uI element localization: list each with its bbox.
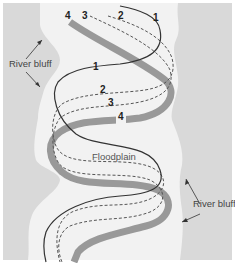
channel-label-1-mid: 1 xyxy=(93,61,99,72)
channel-label-4-mid: 4 xyxy=(118,111,124,122)
channel-label-3-mid: 3 xyxy=(108,97,114,108)
channel-label-3-top: 3 xyxy=(82,10,88,21)
channel-label-1-top: 1 xyxy=(153,12,159,23)
river-bluff-label-right: River bluff xyxy=(193,198,235,209)
floodplain-label: Floodplain xyxy=(92,151,136,162)
channel-label-2-top: 2 xyxy=(118,10,124,21)
channel-label-2-mid: 2 xyxy=(100,84,106,95)
channel-label-4-top: 4 xyxy=(65,10,71,21)
meander-diagram xyxy=(0,0,235,263)
river-bluff-label-left: River bluff xyxy=(9,58,52,69)
